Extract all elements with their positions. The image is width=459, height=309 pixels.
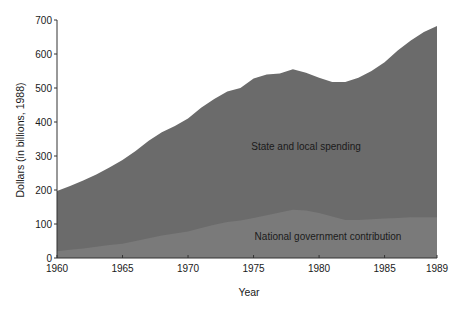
y-tick-label: 700	[35, 15, 52, 26]
area-chart: 0100200300400500600700196019651970197519…	[0, 0, 459, 309]
y-tick-label: 400	[35, 117, 52, 128]
x-tick-label: 1985	[373, 263, 396, 274]
y-tick-label: 300	[35, 151, 52, 162]
x-tick-label: 1975	[242, 263, 265, 274]
y-tick-label: 100	[35, 219, 52, 230]
x-tick-label: 1965	[111, 263, 134, 274]
y-tick-label: 200	[35, 185, 52, 196]
y-tick-label: 0	[46, 253, 52, 264]
y-axis-title: Dollars (in billions, 1988)	[14, 83, 26, 198]
x-tick-label: 1970	[177, 263, 200, 274]
y-tick-label: 600	[35, 49, 52, 60]
x-tick-label: 1989	[426, 263, 449, 274]
x-tick-label: 1960	[46, 263, 69, 274]
label-state-local-spending: State and local spending	[251, 141, 361, 152]
x-tick-label: 1980	[308, 263, 331, 274]
plot-areas	[57, 26, 437, 258]
x-axis-title: Year	[238, 286, 260, 298]
y-tick-label: 500	[35, 83, 52, 94]
label-national-government-contribution: National government contribution	[255, 231, 402, 242]
